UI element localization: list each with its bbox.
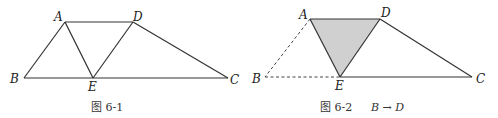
figure-6-2 — [265, 19, 472, 77]
segment-DC — [380, 19, 472, 77]
figure-6-1 — [24, 22, 228, 78]
figure-caption-6-2-math: B → D — [370, 101, 404, 114]
segment-DC — [133, 22, 228, 78]
point-label-C: C — [476, 72, 485, 86]
diagram-canvas: A D B E C 图 6-1 A D B E C 图 6-2 B → D — [0, 0, 498, 118]
point-label-E: E — [87, 80, 97, 94]
point-label-A: A — [298, 8, 308, 22]
figure-caption-6-1: 图 6-1 — [91, 101, 123, 114]
point-label-A: A — [53, 10, 63, 24]
shaded-triangle-ADE — [310, 19, 380, 77]
dashed-segment-AB — [265, 19, 310, 77]
point-label-D: D — [380, 6, 391, 20]
point-label-B: B — [9, 72, 19, 86]
point-label-B: B — [251, 72, 261, 86]
segment-AB — [24, 22, 65, 78]
point-label-E: E — [334, 79, 344, 93]
segment-DE — [93, 22, 133, 78]
figure-caption-6-2: 图 6-2 — [320, 101, 352, 114]
segment-AE — [65, 22, 93, 78]
point-label-C: C — [230, 73, 239, 87]
point-label-D: D — [132, 10, 143, 24]
